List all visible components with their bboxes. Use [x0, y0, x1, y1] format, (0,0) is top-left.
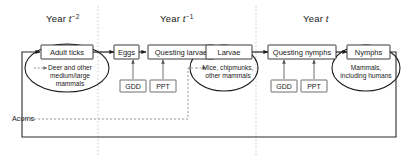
- env-label-ppt-larvae: PPT: [156, 83, 170, 90]
- year-label-t-minus-2: Year t−2: [46, 13, 80, 24]
- tick-life-cycle-diagram: Year t−2 Year t−1 Year t Adult ticks: [0, 0, 408, 163]
- stage-label-questing-nymphs: Questing nymphs: [273, 48, 332, 57]
- acorns-label: Acorns: [12, 114, 35, 123]
- acorns-influence-path: [22, 68, 196, 119]
- env-label-gdd-larvae: GDD: [125, 83, 141, 90]
- stage-label-larvae: Larvae: [218, 48, 241, 57]
- stage-label-adult-ticks: Adult ticks: [50, 48, 84, 57]
- host-text-adult-ticks-line-1: Deer and other: [48, 64, 93, 71]
- stage-label-eggs: Eggs: [118, 48, 135, 57]
- stage-label-nymphs: Nymphs: [355, 48, 383, 57]
- host-text-nymphs-line-2: including humans: [340, 72, 392, 80]
- diagram-canvas: Year t−2 Year t−1 Year t Adult ticks: [0, 0, 408, 163]
- stage-label-questing-larvae: Questing larvae: [155, 48, 208, 57]
- host-text-adult-ticks-line-2: medium/large: [50, 72, 90, 80]
- year-label-t-minus-1: Year t−1: [160, 13, 194, 24]
- host-text-nymphs-line-1: Mammals,: [351, 64, 382, 71]
- host-text-adult-ticks-line-3: mammals: [56, 80, 85, 87]
- host-text-larvae-line-1: Mice, chipmunks,: [203, 64, 254, 72]
- env-label-gdd-nymphs: GDD: [276, 83, 292, 90]
- env-label-ppt-nymphs: PPT: [307, 83, 321, 90]
- host-text-larvae-line-2: other mammals: [205, 72, 251, 79]
- year-label-t: Year t: [303, 13, 329, 24]
